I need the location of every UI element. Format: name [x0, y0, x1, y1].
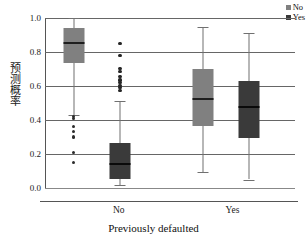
boxplot-box	[234, 18, 264, 188]
median-line	[238, 106, 259, 108]
y-axis-tick-label: 0.8	[30, 48, 41, 57]
box-rectangle	[110, 143, 131, 179]
whisker-cap-upper	[115, 101, 126, 102]
boxplot-figure: No Yes 预测概率 0.00.20.40.60.81.0 Previousl…	[0, 0, 307, 245]
median-line	[192, 98, 213, 100]
median-line	[110, 163, 131, 165]
box-rectangle	[238, 81, 259, 138]
legend-item-no: No	[286, 3, 303, 12]
y-axis-tick-label: 0.4	[30, 116, 41, 125]
outlier-point	[72, 130, 75, 133]
whisker-cap-lower	[243, 180, 254, 181]
y-axis-tick-label: 1.0	[30, 14, 41, 23]
outlier-point	[118, 70, 121, 73]
box-rectangle	[63, 28, 84, 63]
outlier-point	[72, 135, 75, 138]
outlier-point	[72, 117, 75, 120]
boxplot-box	[105, 18, 135, 188]
legend-swatch-no	[286, 5, 291, 10]
x-axis-title: Previously defaulted	[0, 222, 307, 234]
outlier-point	[72, 125, 75, 128]
y-axis-tick-label: 0.2	[30, 150, 41, 159]
y-axis-tick-label: 0.0	[30, 184, 41, 193]
median-line	[63, 42, 84, 44]
x-axis-line	[40, 201, 298, 202]
plot-area: 0.00.20.40.60.81.0	[45, 18, 295, 188]
y-axis-tick-label: 0.6	[30, 82, 41, 91]
outlier-point	[72, 161, 75, 164]
whisker-cap-upper	[243, 33, 254, 34]
outlier-point	[118, 89, 121, 92]
x-axis-tick-label: Yes	[226, 205, 240, 216]
whisker-cap-upper	[68, 18, 79, 19]
y-axis-title: 预测概率	[6, 62, 20, 106]
boxplot-box	[59, 18, 89, 188]
x-axis-tick-label: No	[113, 205, 125, 216]
gridline	[45, 188, 295, 189]
whisker-cap-lower	[197, 172, 208, 173]
whisker-cap-lower	[115, 185, 126, 186]
outlier-point	[72, 151, 75, 154]
whisker-cap-upper	[197, 27, 208, 28]
boxplot-box	[188, 18, 218, 188]
outlier-point	[118, 42, 121, 45]
outlier-point	[118, 54, 121, 57]
legend-label-no: No	[293, 3, 303, 12]
